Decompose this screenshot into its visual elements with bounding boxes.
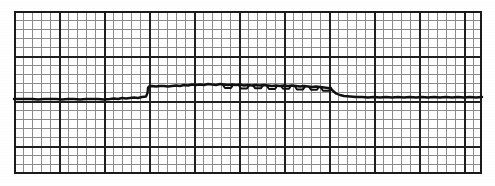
grid-paper <box>14 11 482 174</box>
grid-left-border <box>14 11 16 174</box>
grid-right-border <box>480 11 482 174</box>
grid-top-border <box>14 11 482 13</box>
chart-strip <box>0 0 495 186</box>
grid-bottom-border <box>14 172 482 174</box>
major-gridlines <box>14 11 482 174</box>
